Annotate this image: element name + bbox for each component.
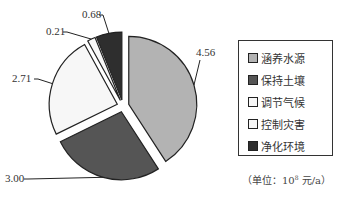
legend-label: 控制灾害 (261, 116, 305, 132)
leader-line (34, 79, 52, 84)
leader-line (24, 177, 103, 179)
legend-swatch-icon (248, 119, 258, 129)
legend-item-environment-purification: 净化环境 (248, 135, 332, 157)
legend-item-disaster-control: 控制灾害 (248, 113, 332, 135)
legend-swatch-icon (248, 53, 258, 63)
legend-label: 调节气候 (261, 94, 305, 110)
value-label: 0.21 (46, 25, 65, 37)
legend-item-climate-regulation: 调节气候 (248, 91, 332, 113)
pie-slices (49, 32, 196, 180)
value-label: 2.71 (12, 72, 31, 84)
value-label: 3.00 (5, 172, 25, 184)
leader-line (63, 32, 91, 39)
legend-label: 涵养水源 (261, 50, 305, 66)
value-label: 0.68 (82, 8, 102, 20)
legend-item-water-conservation: 涵养水源 (248, 47, 332, 69)
value-label: 4.56 (196, 46, 216, 58)
legend-label: 保持土壤 (261, 72, 305, 88)
unit-prefix: （单位：10 (242, 175, 295, 186)
legend: 涵养水源 保持土壤 调节气候 控制灾害 净化环境 (238, 40, 333, 156)
legend-swatch-icon (248, 97, 258, 107)
unit-suffix: 元/a） (299, 175, 332, 186)
legend-label: 净化环境 (261, 138, 305, 154)
legend-swatch-icon (248, 75, 258, 85)
unit-label: （单位：108 元/a） (242, 172, 331, 187)
leader-line (194, 60, 200, 85)
legend-swatch-icon (248, 141, 258, 151)
legend-item-soil-retention: 保持土壤 (248, 69, 332, 91)
